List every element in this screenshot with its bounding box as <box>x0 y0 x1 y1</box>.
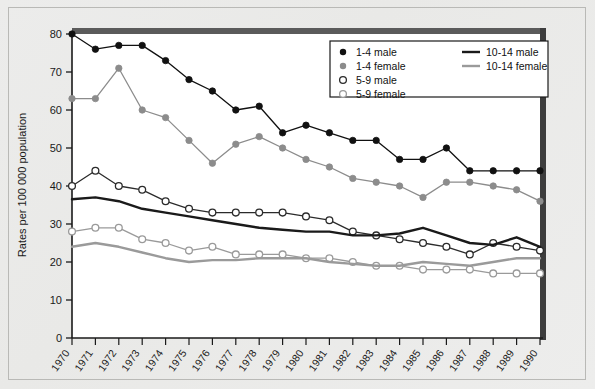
legend-label: 1-4 male <box>356 46 397 58</box>
x-tick-label: 1987 <box>446 347 469 373</box>
y-tick-label: 60 <box>50 104 62 116</box>
x-tick-label: 1990 <box>516 347 539 373</box>
y-tick-label: 20 <box>50 256 62 268</box>
legend-filled-circle-icon <box>340 63 346 69</box>
x-tick-label: 1985 <box>399 347 422 373</box>
legend-open-circle-icon <box>340 91 347 98</box>
y-tick-label: 0 <box>56 332 62 344</box>
x-tick-label: 1975 <box>165 347 188 373</box>
x-tick-label: 1972 <box>95 347 118 373</box>
x-tick-label: 1982 <box>329 347 352 373</box>
x-tick-label: 1983 <box>353 347 376 373</box>
x-tick-label: 1978 <box>236 347 259 373</box>
y-axis-label: Rates per 100 000 population <box>16 113 28 257</box>
x-tick-label: 1976 <box>189 347 212 373</box>
x-tick-label: 1989 <box>493 347 516 373</box>
legend-label: 10-14 female <box>486 60 547 72</box>
y-tick-label: 10 <box>50 294 62 306</box>
y-tick-label: 80 <box>50 28 62 40</box>
y-tick-label: 50 <box>50 142 62 154</box>
x-tick-label: 1971 <box>72 347 95 373</box>
x-axis-ticks: 1970197119721973197419751976197719781979… <box>48 338 540 373</box>
x-tick-label: 1973 <box>119 347 142 373</box>
plot-top-border <box>72 28 546 34</box>
x-tick-label: 1984 <box>376 347 399 373</box>
x-tick-label: 1981 <box>306 347 329 373</box>
legend-label: 5-9 male <box>356 74 397 86</box>
x-tick-label: 1979 <box>259 347 282 373</box>
figure-container: 01020304050607080 1970197119721973197419… <box>0 0 595 389</box>
y-tick-label: 30 <box>50 218 62 230</box>
legend-label: 5-9 female <box>356 88 406 100</box>
y-tick-label: 70 <box>50 66 62 78</box>
y-tick-label: 40 <box>50 180 62 192</box>
x-tick-label: 1974 <box>142 347 165 373</box>
x-tick-label: 1986 <box>423 347 446 373</box>
line-chart: 01020304050607080 1970197119721973197419… <box>0 0 595 389</box>
x-tick-label: 1988 <box>470 347 493 373</box>
legend-label: 1-4 female <box>356 60 406 72</box>
x-tick-label: 1970 <box>48 347 71 373</box>
legend-open-circle-icon <box>340 77 347 84</box>
legend-filled-circle-icon <box>340 49 346 55</box>
x-tick-label: 1977 <box>212 347 235 373</box>
x-tick-label: 1980 <box>282 347 305 373</box>
legend-label: 10-14 male <box>486 46 539 58</box>
